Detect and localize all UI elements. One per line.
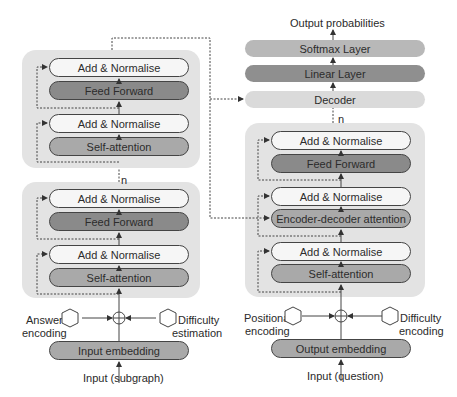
connectors: [0, 0, 457, 397]
